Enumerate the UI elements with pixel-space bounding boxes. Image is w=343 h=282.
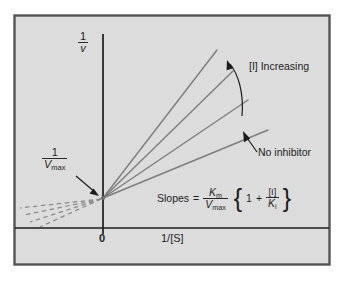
- equation-km-over-vmax: Km Vmax: [203, 187, 227, 210]
- equation-one: 1: [246, 193, 252, 204]
- equation-brace-open: {: [234, 186, 242, 211]
- equation-km-sub: m: [216, 192, 222, 200]
- convergence-point: [101, 196, 105, 200]
- vmax-intercept-denominator: Vmax: [42, 159, 67, 170]
- y-axis-label: 1 v: [78, 31, 88, 54]
- equation-km: Km: [207, 187, 224, 198]
- lineweaver-burk-figure: 1 v 1 Vmax [I] Increasing No inhibitor 0…: [0, 0, 343, 282]
- y-axis-label-numerator: 1: [78, 31, 88, 42]
- equation-ki-sub: i: [275, 203, 277, 211]
- equation-i-over-ki: [I] Ki: [266, 188, 279, 209]
- equation-inhibitor-num: [I]: [267, 188, 279, 197]
- x-axis-label: 1/[S]: [161, 232, 184, 244]
- y-axis-label-denominator: v: [78, 43, 88, 54]
- vmax-intercept-denominator-sub: max: [51, 163, 65, 172]
- vmax-intercept-label: 1 Vmax: [42, 147, 67, 170]
- vmax-intercept-numerator: 1: [50, 147, 60, 158]
- equation-plus: +: [256, 193, 262, 204]
- no-inhibitor-label: No inhibitor: [258, 146, 311, 158]
- equation-vmax: Vmax: [203, 199, 227, 210]
- equation-brace-close: }: [283, 186, 291, 211]
- equation-ki: Ki: [266, 198, 279, 209]
- equation-equals: =: [193, 193, 199, 204]
- origin-label: 0: [99, 232, 105, 244]
- equation-vmax-sub: max: [212, 204, 225, 212]
- increasing-label: [I] Increasing: [249, 60, 309, 72]
- equation-lhs: Slopes: [157, 193, 189, 204]
- equation-km-base: K: [209, 186, 216, 198]
- slopes-equation: Slopes = Km Vmax { 1 + [I] Ki }: [157, 186, 291, 211]
